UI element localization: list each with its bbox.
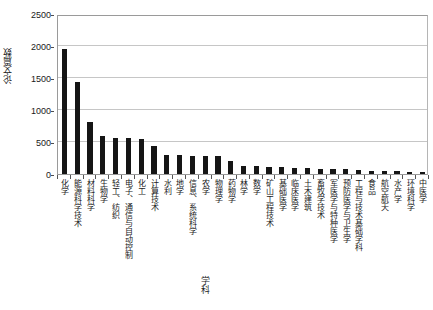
bar bbox=[305, 168, 310, 174]
bar bbox=[266, 167, 271, 174]
y-axis-tick-mark bbox=[51, 111, 54, 112]
bar bbox=[254, 166, 259, 174]
bar bbox=[330, 169, 335, 174]
x-axis-tick-labels: 化学能源科学技术材料科学生物学轻工、纺织电子、通信与自动控制化工计算技术水利地学… bbox=[57, 179, 428, 274]
y-axis-tick-label: 1500 bbox=[31, 74, 51, 84]
bar bbox=[356, 170, 361, 174]
x-axis-tick-label: 食品 bbox=[366, 179, 375, 195]
bar bbox=[318, 169, 323, 174]
x-axis-tick-label: 临床医学 bbox=[289, 179, 298, 211]
x-axis-tick-label: 物理学 bbox=[213, 179, 222, 203]
y-axis-tick-label: 2500 bbox=[31, 10, 51, 20]
bar bbox=[151, 146, 156, 174]
bar bbox=[177, 155, 182, 174]
x-axis-tick-label: 药物学 bbox=[225, 179, 234, 203]
x-axis-tick-label: 计算技术 bbox=[149, 179, 158, 211]
bar bbox=[292, 168, 297, 174]
y-axis-tick-label: 1000 bbox=[31, 106, 51, 116]
x-axis-tick-label: 材料科学 bbox=[85, 179, 94, 211]
x-axis-tick-label: 环境科学 bbox=[405, 179, 414, 211]
x-axis-tick-label: 水利 bbox=[161, 179, 170, 195]
x-axis-tick-label: 电子、通信与自动控制 bbox=[123, 179, 132, 259]
x-axis-tick-label: 矿山工程技术 bbox=[264, 179, 273, 227]
plot-area bbox=[57, 15, 428, 175]
y-axis-tick-labels: 05001000150020002500 bbox=[16, 0, 54, 175]
y-axis-tick-mark bbox=[51, 15, 54, 16]
bar bbox=[75, 82, 80, 174]
bar bbox=[164, 155, 169, 174]
x-axis-tick-label: 畜牧学技术 bbox=[315, 179, 324, 219]
x-axis-tick-label: 能源科学技术 bbox=[72, 179, 81, 227]
bar-series bbox=[58, 16, 427, 174]
bar bbox=[100, 136, 105, 174]
y-axis-tick-mark bbox=[51, 47, 54, 48]
bar bbox=[394, 171, 399, 174]
x-axis-tick-label: 轻工、纺织 bbox=[110, 179, 119, 219]
bar bbox=[420, 172, 425, 174]
x-axis-title: 学科 bbox=[200, 276, 210, 294]
chart-figure: 论文篇数 05001000150020002500 化学能源科学技术材料科学生物… bbox=[0, 0, 433, 310]
x-axis-tick-label: 生物学 bbox=[97, 179, 106, 203]
x-axis-tick-label: 水产学 bbox=[392, 179, 401, 203]
y-axis-tick-label: 500 bbox=[36, 138, 51, 148]
bar bbox=[228, 161, 233, 174]
bar bbox=[87, 122, 92, 174]
x-axis-tick-label: 工程与技术基础学科 bbox=[353, 179, 362, 251]
bar bbox=[343, 169, 348, 174]
x-axis-tick-label: 林学 bbox=[238, 179, 247, 195]
x-axis-tick-label: 航空航天 bbox=[379, 179, 388, 211]
bar bbox=[369, 171, 374, 174]
y-axis-tick-mark bbox=[51, 175, 54, 176]
x-axis-tick-mark bbox=[428, 175, 429, 179]
x-axis-tick-label: 化学 bbox=[59, 179, 68, 195]
bar bbox=[407, 172, 412, 174]
x-axis-tick-label: 基础医学 bbox=[277, 179, 286, 211]
x-axis-tick-label: 地学 bbox=[174, 179, 183, 195]
x-axis-tick-label: 中医学 bbox=[417, 179, 426, 203]
bar bbox=[113, 138, 118, 174]
x-axis-tick-label: 军医学与特种医学 bbox=[328, 179, 337, 243]
x-axis-tick-label: 农学 bbox=[200, 179, 209, 195]
y-axis-tick-mark bbox=[51, 143, 54, 144]
y-axis-tick-label: 2000 bbox=[31, 42, 51, 52]
bar bbox=[126, 138, 131, 174]
bar bbox=[190, 156, 195, 174]
bar bbox=[279, 167, 284, 174]
bar bbox=[139, 139, 144, 174]
y-axis-tick-mark bbox=[51, 79, 54, 80]
x-axis-tick-label: 预防医学与卫生学 bbox=[341, 179, 350, 243]
x-axis-tick-label: 土木建筑 bbox=[302, 179, 311, 211]
x-axis-tick-label: 信息、系统科学 bbox=[187, 179, 196, 235]
bar bbox=[215, 156, 220, 174]
bar bbox=[62, 49, 67, 174]
bar bbox=[382, 171, 387, 174]
y-axis-title: 论文篇数 bbox=[2, 48, 16, 84]
bar bbox=[241, 166, 246, 174]
x-axis-tick-label: 化工 bbox=[136, 179, 145, 195]
x-axis-tick-label: 数学 bbox=[251, 179, 260, 195]
bar bbox=[203, 156, 208, 174]
